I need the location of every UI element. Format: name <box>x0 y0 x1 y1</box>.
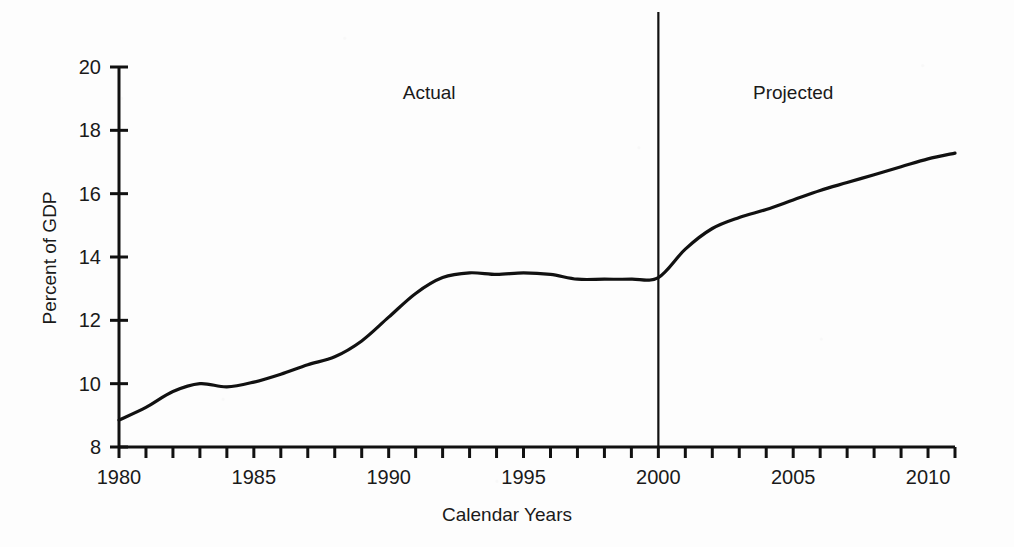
y-axis-tick-label: 18 <box>79 119 101 141</box>
x-axis-tick-label: 1980 <box>97 466 142 488</box>
chart-figure: Percent of GDP 8101214161820198019851990… <box>0 0 1014 547</box>
data-line-percent-of-gdp <box>119 153 955 420</box>
gdp-percent-line-chart: Percent of GDP 8101214161820198019851990… <box>0 0 1014 547</box>
annotation-actual: Actual <box>403 82 456 103</box>
annotations-layer: ActualProjected <box>403 82 834 103</box>
y-axis-tick-label: 14 <box>79 246 101 268</box>
data-series-layer <box>119 153 955 420</box>
x-axis-tick-label: 2005 <box>771 466 816 488</box>
y-axis-title: Percent of GDP <box>39 191 60 324</box>
y-axis-tick-label: 16 <box>79 183 101 205</box>
y-axis-title-group: Percent of GDP <box>39 191 60 324</box>
x-axis-tick-label: 1995 <box>501 466 546 488</box>
x-axis-tick-label: 2000 <box>636 466 681 488</box>
axes-layer <box>110 67 955 458</box>
x-axis-title: Calendar Years <box>442 504 572 525</box>
y-axis-tick-label: 20 <box>79 56 101 78</box>
y-axis-tick-label: 8 <box>90 436 101 458</box>
x-axis-tick-label: 1990 <box>366 466 411 488</box>
x-axis-tick-label: 2010 <box>906 466 951 488</box>
y-axis-tick-label: 10 <box>79 373 101 395</box>
x-axis-tick-label: 1985 <box>232 466 277 488</box>
y-axis-tick-label: 12 <box>79 309 101 331</box>
annotation-projected: Projected <box>753 82 833 103</box>
